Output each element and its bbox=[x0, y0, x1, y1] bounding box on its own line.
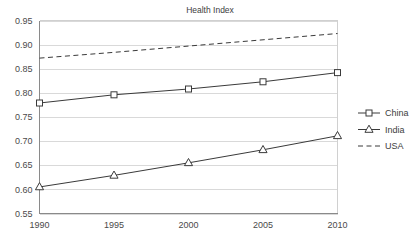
legend-item-india[interactable]: India bbox=[358, 125, 405, 135]
series-india bbox=[35, 131, 341, 189]
health-index-chart: Health Index 0.550.600.650.700.750.800.8… bbox=[0, 0, 419, 242]
chart-title: Health Index bbox=[186, 5, 234, 15]
data-point-china-1995 bbox=[111, 92, 117, 98]
data-point-china-1990 bbox=[37, 100, 43, 106]
data-point-china-2010 bbox=[335, 70, 341, 76]
legend-label-usa: USA bbox=[385, 141, 404, 151]
y-tick-label: 0.65 bbox=[15, 160, 33, 170]
y-tick-label: 0.95 bbox=[15, 16, 33, 26]
data-point-india-2010 bbox=[333, 131, 341, 138]
x-tick-label: 2010 bbox=[327, 220, 347, 230]
x-axis-tick-labels: 19901995200020052010 bbox=[29, 220, 347, 230]
data-point-china-2000 bbox=[186, 86, 192, 92]
x-tick-label: 1990 bbox=[29, 220, 49, 230]
legend-marker-india bbox=[365, 125, 373, 132]
y-tick-label: 0.75 bbox=[15, 112, 33, 122]
x-tick-label: 2000 bbox=[178, 220, 198, 230]
y-tick-label: 0.90 bbox=[15, 40, 33, 50]
series-china bbox=[37, 70, 341, 106]
legend-marker-china bbox=[366, 110, 372, 116]
legend-label-china: China bbox=[385, 108, 409, 118]
legend-item-china[interactable]: China bbox=[358, 108, 409, 118]
y-tick-label: 0.70 bbox=[15, 136, 33, 146]
chart-legend: ChinaIndiaUSA bbox=[358, 108, 409, 151]
data-series bbox=[35, 34, 341, 190]
data-point-china-2005 bbox=[260, 79, 266, 85]
chart-canvas: Health Index 0.550.600.650.700.750.800.8… bbox=[0, 0, 419, 242]
x-tick-label: 2005 bbox=[253, 220, 273, 230]
y-axis-tick-labels: 0.550.600.650.700.750.800.850.900.95 bbox=[15, 16, 33, 219]
x-tick-label: 1995 bbox=[104, 220, 124, 230]
y-tick-label: 0.60 bbox=[15, 185, 33, 195]
legend-item-usa[interactable]: USA bbox=[358, 141, 404, 151]
y-tick-label: 0.80 bbox=[15, 88, 33, 98]
y-tick-label: 0.55 bbox=[15, 209, 33, 219]
gridlines bbox=[40, 22, 338, 215]
y-tick-label: 0.85 bbox=[15, 64, 33, 74]
legend-label-india: India bbox=[385, 125, 405, 135]
